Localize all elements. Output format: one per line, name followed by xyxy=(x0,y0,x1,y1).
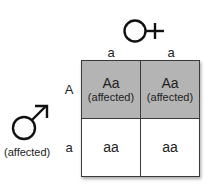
phenotype-label: (affected) xyxy=(147,91,193,104)
female-symbol-icon xyxy=(122,18,168,44)
male-phenotype-label: (affected) xyxy=(4,146,50,158)
genotype-label: aa xyxy=(162,140,178,155)
genotype-label: Aa xyxy=(161,76,178,91)
genotype-label: Aa xyxy=(102,76,119,91)
male-allele-2: a xyxy=(62,140,76,155)
grid-cell-r1c2: Aa (affected) xyxy=(140,60,200,119)
grid-cell-r2c2: aa xyxy=(140,118,200,177)
male-allele-1: A xyxy=(62,82,76,97)
female-allele-1: a xyxy=(101,45,121,60)
punnett-grid: Aa (affected) Aa (affected) aa aa xyxy=(81,60,200,177)
grid-cell-r1c1: Aa (affected) xyxy=(81,60,141,119)
phenotype-label: (affected) xyxy=(88,91,134,104)
female-allele-2: a xyxy=(161,45,181,60)
male-symbol-icon xyxy=(10,104,50,142)
grid-cell-r2c1: aa xyxy=(81,118,141,177)
genotype-label: aa xyxy=(103,140,119,155)
